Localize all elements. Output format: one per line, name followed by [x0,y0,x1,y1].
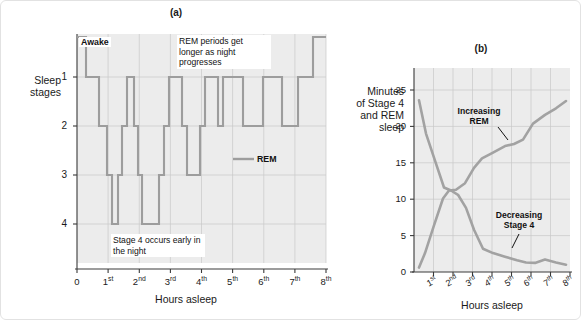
panel-a-x-tick-3: 3rd [158,275,182,287]
panel-a-x-ticks [77,269,326,273]
panel-a-x-tick-1: 1st [96,275,120,287]
panel-b-annotation-rem: Increasing REM [448,106,510,126]
panel-a-annotation-stage4: Stage 4 occurs early in the night [111,234,205,257]
panel-b-y-ticks [410,90,414,272]
panel-b-minutes: (b) Minutes of Stage 4 and REM sleep [336,1,581,320]
sleep-figure: (a) Sleep stages [0,0,581,320]
panel-b-plot [336,1,581,320]
panel-a-y-ticks [73,77,77,224]
panel-a-x-tick-7: 7th [283,275,307,287]
panel-a-x-tick-2: 2nd [127,275,151,287]
panel-b-annotation-stage4: Decreasing Stage 4 [488,210,550,230]
panel-a-y-tick-2: 2 [53,120,67,131]
panel-b-y-tick-5: 5 [384,230,406,241]
panel-a-x-tick-8: 8th [314,275,338,287]
panel-a-y-tick-4: 4 [53,218,67,229]
panel-a-y-tick-1: 1 [53,71,67,82]
panel-a-x-tick-6: 6th [252,275,276,287]
panel-a-y-tick-3: 3 [53,169,67,180]
panel-b-y-tick-0: 0 [384,266,406,277]
panel-a-awake-label: Awake [79,37,111,47]
panel-a-plot [1,1,341,320]
panel-a-hypnogram: (a) Sleep stages [1,1,341,320]
panel-b-y-tick-15: 15 [384,157,406,168]
panel-a-x-tick-5: 5th [221,275,245,287]
panel-a-x-axis-label: Hours asleep [126,293,246,305]
panel-a-annotation-rem: REM periods get longer as night progress… [177,35,271,69]
panel-a-x-tick-4: 4th [190,275,214,287]
panel-a-legend-label: REM [257,154,277,164]
panel-a-x-tick-0: 0 [65,275,89,287]
panel-b-y-tick-20: 20 [384,120,406,131]
panel-b-x-axis-label: Hours asleep [432,299,552,311]
panel-b-y-tick-10: 10 [384,193,406,204]
panel-b-y-tick-25: 25 [384,84,406,95]
